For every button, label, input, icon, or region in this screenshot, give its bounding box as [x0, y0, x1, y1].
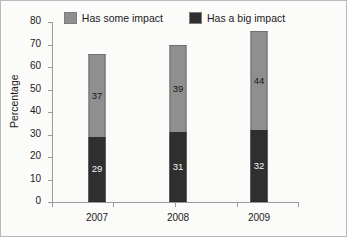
bar-2008-value-has-some-impact: 39	[173, 84, 184, 94]
bar-2007-value-has-some-impact: 37	[92, 91, 103, 101]
y-tick-label-20: 20	[30, 151, 41, 161]
y-tick-label-80: 80	[30, 16, 41, 26]
y-tick-50: 50	[48, 90, 52, 91]
y-tick-60: 60	[48, 67, 52, 68]
y-tick-40: 40	[48, 112, 52, 113]
y-tick-30: 30	[48, 135, 52, 136]
bar-2009-value-has-a-big-impact: 32	[254, 161, 265, 171]
y-tick-label-0: 0	[35, 196, 41, 206]
y-tick-80: 80	[48, 22, 52, 23]
bar-2009-segment-has-some-impact[interactable]: 44	[251, 31, 268, 130]
chart-figure: Has some impact Has a big impact Percent…	[0, 0, 347, 237]
y-tick-70: 70	[48, 45, 52, 46]
y-tick-label-40: 40	[30, 106, 41, 116]
y-tick-label-10: 10	[30, 174, 41, 184]
bar-2007-value-has-a-big-impact: 29	[92, 164, 103, 174]
y-tick-20: 20	[48, 157, 52, 158]
y-tick-label-30: 30	[30, 129, 41, 139]
bar-2009-value-has-some-impact: 44	[254, 76, 265, 86]
x-tick-label-2009: 2009	[248, 213, 270, 223]
x-tick-right	[298, 203, 299, 207]
bar-2009[interactable]: 44 32	[251, 31, 268, 202]
bar-2007-segment-has-a-big-impact[interactable]: 29	[89, 137, 106, 202]
bar-2008-segment-has-some-impact[interactable]: 39	[170, 45, 187, 133]
bar-2008-segment-has-a-big-impact[interactable]: 31	[170, 132, 187, 202]
x-tick-3	[237, 203, 238, 207]
x-tick-label-2008: 2008	[167, 213, 189, 223]
y-tick-label-60: 60	[30, 61, 41, 71]
x-tick-2	[175, 203, 176, 207]
y-axis-title-text: Percentage	[9, 75, 20, 129]
x-tick-left	[52, 203, 53, 207]
bar-2009-segment-has-a-big-impact[interactable]: 32	[251, 130, 268, 202]
y-axis-title: Percentage	[7, 1, 21, 202]
x-tick-label-2007: 2007	[86, 213, 108, 223]
y-axis-line	[52, 22, 53, 203]
x-tick-1	[113, 203, 114, 207]
bar-2007[interactable]: 37 29	[89, 54, 106, 203]
y-tick-label-70: 70	[30, 39, 41, 49]
y-tick-10: 10	[48, 180, 52, 181]
bar-2008[interactable]: 39 31	[170, 45, 187, 203]
plot-area: 80 70 60 50 40 30 20 10 0 2007	[52, 22, 298, 202]
bar-2007-segment-has-some-impact[interactable]: 37	[89, 54, 106, 137]
bar-2008-value-has-a-big-impact: 31	[173, 162, 184, 172]
y-tick-label-50: 50	[30, 84, 41, 94]
